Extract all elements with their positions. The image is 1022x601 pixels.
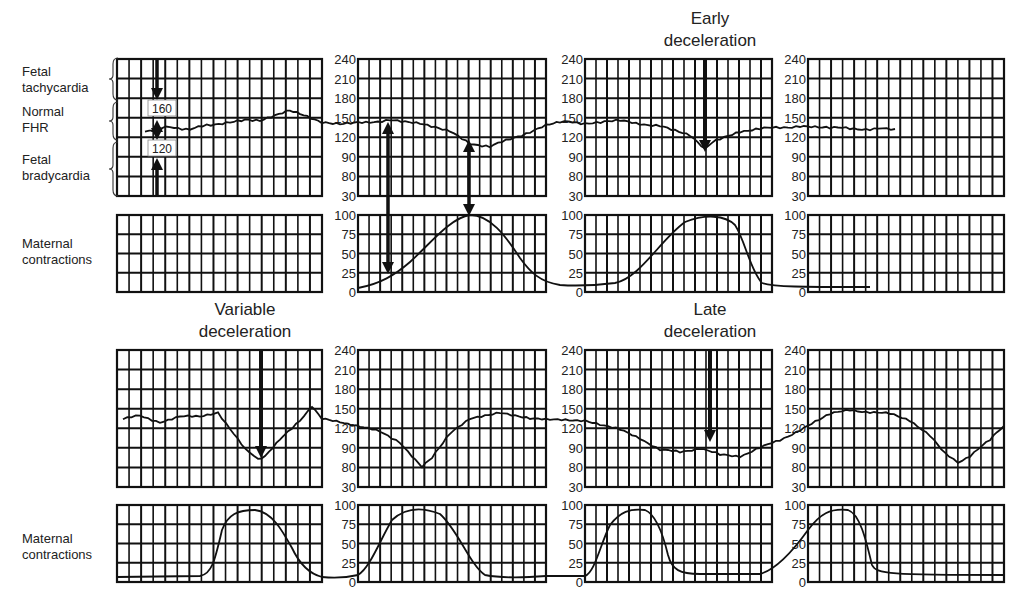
title-variable-deceleration: Variable deceleration: [175, 299, 315, 343]
y-tick-label: 210: [334, 72, 356, 87]
y-tick-label: 120: [784, 130, 806, 145]
y-tick-label: 25: [792, 556, 806, 571]
y-tick-label: 180: [561, 91, 583, 106]
y-tick-label: 75: [569, 227, 583, 242]
grid-fhrA-panel-1: [117, 59, 322, 196]
y-tick-label: 90: [792, 150, 806, 165]
y-tick-label: 150: [784, 402, 806, 417]
y-tick-label: 30: [342, 480, 356, 495]
y-tick-label: 100: [784, 208, 806, 223]
y-tick-label: 240: [334, 52, 356, 67]
y-tick-label: 0: [576, 575, 583, 590]
y-tick-label: 90: [792, 441, 806, 456]
y-tick-label: 240: [784, 52, 806, 67]
y-tick-label: 80: [792, 460, 806, 475]
title-early-deceleration: Early deceleration: [640, 8, 780, 52]
y-tick-label: 50: [342, 537, 356, 552]
y-tick-label: 180: [784, 91, 806, 106]
y-tick-label: 25: [342, 266, 356, 281]
y-tick-label: 50: [569, 247, 583, 262]
y-tick-label: 210: [561, 72, 583, 87]
y-tick-label: 90: [569, 150, 583, 165]
svg-text:120: 120: [152, 142, 172, 156]
y-tick-label: 75: [342, 227, 356, 242]
y-tick-label: 240: [561, 343, 583, 358]
y-tick-label: 80: [792, 169, 806, 184]
y-tick-label: 30: [792, 480, 806, 495]
y-tick-label: 30: [792, 189, 806, 204]
label-maternal-contractions-top: Maternal contractions: [22, 236, 92, 268]
y-tick-label: 50: [342, 247, 356, 262]
y-tick-label: 150: [334, 402, 356, 417]
y-tick-label: 100: [334, 208, 356, 223]
y-tick-label: 180: [334, 382, 356, 397]
y-tick-label: 150: [784, 111, 806, 126]
y-tick-label: 90: [342, 441, 356, 456]
y-tick-label: 25: [342, 556, 356, 571]
label-fetal-tachycardia: Fetal tachycardia: [22, 64, 88, 96]
y-tick-label: 80: [569, 169, 583, 184]
y-tick-label: 0: [799, 575, 806, 590]
y-tick-label: 150: [561, 402, 583, 417]
y-tick-label: 210: [334, 363, 356, 378]
grid-conB-panel-2: [358, 505, 546, 582]
y-tick-label: 0: [576, 285, 583, 300]
y-tick-label: 80: [342, 460, 356, 475]
y-tick-label: 180: [334, 91, 356, 106]
y-tick-label: 90: [569, 441, 583, 456]
y-tick-label: 0: [349, 285, 356, 300]
grid-fhrA-panel-3: [585, 59, 772, 196]
y-tick-label: 240: [561, 52, 583, 67]
label-120: 120: [148, 140, 176, 156]
y-tick-label: 80: [342, 169, 356, 184]
grid-conA-panel-4: [808, 215, 1004, 292]
y-tick-label: 210: [784, 72, 806, 87]
y-tick-label: 210: [561, 363, 583, 378]
y-tick-label: 120: [334, 130, 356, 145]
label-normal-fhr: Normal FHR: [22, 104, 64, 136]
y-tick-label: 80: [569, 460, 583, 475]
grid-conA-panel-1: [117, 215, 322, 292]
y-tick-label: 120: [561, 130, 583, 145]
y-tick-label: 100: [561, 208, 583, 223]
grid-fhrB-panel-2: [358, 350, 546, 487]
ctg-diagram: 2402101801501209080302402101801501209080…: [0, 0, 1022, 601]
label-maternal-contractions-bottom: Maternal contractions: [22, 531, 92, 563]
y-tick-label: 75: [342, 517, 356, 532]
svg-text:160: 160: [152, 102, 172, 116]
y-tick-label: 75: [792, 517, 806, 532]
label-160: 160: [148, 100, 176, 116]
y-tick-label: 75: [569, 517, 583, 532]
y-tick-label: 180: [784, 382, 806, 397]
y-tick-label: 120: [561, 421, 583, 436]
y-tick-label: 25: [569, 266, 583, 281]
y-tick-label: 75: [792, 227, 806, 242]
grid-fhrB-panel-3: [585, 350, 772, 487]
y-tick-label: 90: [342, 150, 356, 165]
y-tick-label: 50: [569, 537, 583, 552]
y-tick-label: 100: [561, 498, 583, 513]
y-tick-label: 240: [784, 343, 806, 358]
y-tick-label: 30: [569, 189, 583, 204]
y-tick-label: 210: [784, 363, 806, 378]
y-tick-label: 25: [569, 556, 583, 571]
y-tick-label: 50: [792, 247, 806, 262]
title-late-deceleration: Late deceleration: [640, 299, 780, 343]
y-tick-label: 180: [561, 382, 583, 397]
y-tick-label: 30: [342, 189, 356, 204]
y-tick-label: 25: [792, 266, 806, 281]
y-tick-label: 100: [784, 498, 806, 513]
y-tick-label: 30: [569, 480, 583, 495]
grid-conB-panel-4: [808, 505, 1004, 582]
label-fetal-bradycardia: Fetal bradycardia: [22, 152, 90, 184]
y-tick-label: 240: [334, 343, 356, 358]
y-tick-label: 100: [334, 498, 356, 513]
